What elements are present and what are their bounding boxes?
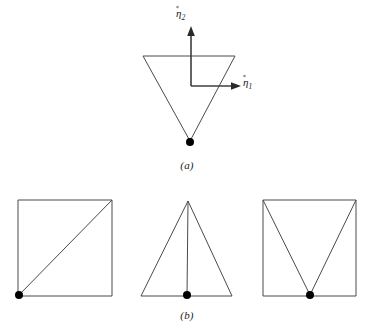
eta2-axis-label: η 2 [176, 7, 185, 19]
triangle-median-node-dot [183, 291, 191, 299]
panel-b-element-3 [263, 200, 356, 299]
eta2-subscript: 2 [181, 13, 185, 22]
v-split-left-line [263, 200, 310, 295]
eta2-arrow-icon [187, 26, 195, 36]
triangle-with-median-outline [141, 201, 232, 296]
reference-square-corner [191, 30, 239, 86]
panel-b-element-2 [141, 201, 232, 299]
eta1-axis-label: η 1 [243, 76, 252, 88]
eta2-glyph: η [176, 7, 181, 19]
panel-b-element-1 [15, 200, 112, 299]
eta1-subscript: 1 [248, 82, 252, 91]
panel-a-group [143, 26, 241, 146]
eta1-base-symbol: η [243, 76, 248, 88]
square-diagonal-line [18, 200, 112, 296]
eta2-base-symbol: η [176, 7, 181, 19]
square-with-v-split-outline [263, 200, 356, 296]
eta1-arrow-icon [231, 82, 241, 90]
square-diagonal-node-dot [15, 291, 23, 299]
panel-a-caption: (a) [167, 159, 207, 171]
eta1-glyph: η [243, 76, 248, 88]
panel-a-vertex-dot [186, 138, 194, 146]
v-split-right-line [310, 200, 356, 295]
figure-root: η 2 η 1 (a) (b) [0, 0, 375, 331]
panel-b-caption: (b) [167, 309, 207, 321]
v-split-node-dot [306, 291, 314, 299]
triangle-median-line [187, 201, 188, 296]
inverted-triangle [143, 56, 235, 141]
